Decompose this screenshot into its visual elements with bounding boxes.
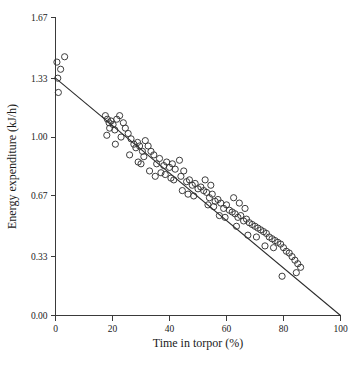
data-point (58, 66, 64, 72)
x-tick-label: 80 (279, 324, 289, 334)
y-tick-label: 1.00 (31, 132, 48, 142)
x-tick-label: 0 (53, 324, 58, 334)
y-tick-label: 0.00 (31, 311, 48, 321)
data-point (236, 200, 242, 206)
data-point (176, 157, 182, 163)
data-point (62, 54, 68, 60)
data-point (242, 205, 248, 211)
data-point (179, 187, 185, 193)
data-point (152, 173, 158, 179)
x-tick-label: 60 (222, 324, 232, 334)
y-tick-label: 1.33 (31, 74, 48, 84)
data-point (172, 166, 178, 172)
data-point (245, 232, 251, 238)
y-tick-label: 0.33 (31, 252, 48, 262)
data-point (262, 243, 268, 249)
data-point (293, 270, 299, 276)
data-point (112, 141, 118, 147)
data-point (202, 177, 208, 183)
x-tick-label: 100 (333, 324, 348, 334)
data-point (231, 195, 237, 201)
data-point (279, 273, 285, 279)
data-point (118, 134, 124, 140)
data-point (156, 155, 162, 161)
data-point (127, 152, 133, 158)
x-axis-title: Time in torpor (%) (153, 336, 244, 350)
data-point (55, 89, 61, 95)
data-point (208, 182, 214, 188)
data-point (178, 173, 184, 179)
scatter-plot: 0.000.330.671.001.331.67020406080100Time… (0, 0, 363, 365)
y-axis-title: Energy expenditure (kJ/h) (5, 104, 19, 229)
data-point (253, 234, 259, 240)
data-point (104, 132, 110, 138)
data-point (54, 59, 60, 65)
x-tick-label: 20 (108, 324, 118, 334)
y-tick-label: 1.67 (31, 13, 48, 23)
data-point (146, 168, 152, 174)
regression-line (56, 78, 341, 315)
figure-caption (0, 354, 363, 365)
axis-lines (56, 18, 341, 316)
figure-container: 0.000.330.671.001.331.67020406080100Time… (0, 0, 363, 365)
y-tick-label: 0.67 (31, 191, 48, 201)
data-point (270, 245, 276, 251)
x-tick-label: 40 (165, 324, 175, 334)
